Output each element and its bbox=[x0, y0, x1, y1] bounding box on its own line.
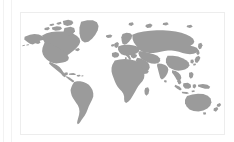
page-gutter-rule-inner bbox=[11, 0, 12, 142]
map-card bbox=[20, 12, 225, 135]
world-map-svg bbox=[21, 13, 224, 134]
page-gutter-rule-outer bbox=[3, 0, 4, 142]
land-puerto-rico bbox=[81, 75, 83, 76]
page-root bbox=[0, 0, 234, 142]
world-map-figure bbox=[21, 13, 224, 134]
